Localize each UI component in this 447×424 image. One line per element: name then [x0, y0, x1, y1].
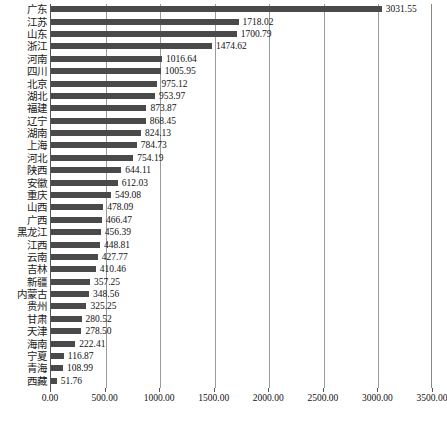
bar-row: 325.25 — [51, 301, 433, 313]
bar-row: 868.45 — [51, 116, 433, 128]
axis-tick-label: 2500.00 — [307, 393, 338, 404]
bar-value-label: 612.03 — [122, 177, 148, 189]
axis-tick-label: 0.00 — [42, 393, 59, 404]
bar-value-label: 1005.95 — [165, 65, 196, 77]
category-label: 黑龙江 — [17, 227, 47, 239]
bar-row: 1474.62 — [51, 41, 433, 53]
bar — [51, 204, 103, 210]
bar — [51, 68, 161, 74]
bar-value-label: 873.87 — [150, 102, 176, 114]
bar — [51, 353, 64, 359]
axis-tick-label: 3000.00 — [362, 393, 393, 404]
bar-row: 448.81 — [51, 240, 433, 252]
bar-value-label: 478.09 — [107, 201, 133, 213]
axis-tick-mark — [268, 388, 269, 392]
category-label: 天津 — [27, 326, 47, 338]
bar-value-label: 448.81 — [104, 239, 130, 251]
axis-tick-mark — [432, 388, 433, 392]
figure-caption — [0, 414, 446, 424]
category-label: 湖北 — [27, 91, 47, 103]
bar — [51, 118, 146, 124]
category-label: 吉林 — [27, 264, 47, 276]
bar-row: 108.99 — [51, 363, 433, 375]
bar — [51, 31, 237, 37]
bar-row: 824.13 — [51, 128, 433, 140]
bar-row: 1005.95 — [51, 66, 433, 78]
bar-value-label: 824.13 — [145, 127, 171, 139]
category-label: 北京 — [27, 79, 47, 91]
bar-value-label: 549.08 — [115, 189, 141, 201]
category-label: 江西 — [27, 240, 47, 252]
category-label: 云南 — [27, 252, 47, 264]
category-axis: 广东江苏山东浙江河南四川北京湖北福建辽宁湖南上海河北陕西安徽重庆山西广西黑龙江江… — [0, 4, 50, 388]
category-label: 海南 — [27, 339, 47, 351]
bar-row: 1700.79 — [51, 29, 433, 41]
bar — [51, 279, 90, 285]
bar-row: 280.52 — [51, 314, 433, 326]
bar — [51, 142, 137, 148]
category-label: 四川 — [27, 66, 47, 78]
category-label: 浙江 — [27, 41, 47, 53]
category-label: 广东 — [27, 4, 47, 16]
category-label: 西藏 — [27, 376, 47, 388]
bar — [51, 341, 75, 347]
bar — [51, 303, 86, 309]
bar-value-label: 754.19 — [137, 152, 163, 164]
category-label: 上海 — [27, 140, 47, 152]
category-label: 新疆 — [27, 277, 47, 289]
axis-tick-mark — [159, 388, 160, 392]
bar — [51, 328, 81, 334]
bar-value-label: 1718.02 — [243, 16, 274, 28]
bar — [51, 167, 121, 173]
bar-row: 975.12 — [51, 79, 433, 91]
bar-row: 466.47 — [51, 215, 433, 227]
bar-row: 784.73 — [51, 140, 433, 152]
plot-area: 3031.551718.021700.791474.621016.641005.… — [50, 4, 432, 388]
bar — [51, 365, 63, 371]
bar-row: 1718.02 — [51, 17, 433, 29]
category-label: 青海 — [27, 363, 47, 375]
bar-value-label: 1474.62 — [216, 40, 247, 52]
bar — [51, 316, 82, 322]
bar-value-label: 975.12 — [161, 78, 187, 90]
bar — [51, 266, 96, 272]
category-label: 甘肃 — [27, 314, 47, 326]
bar-row: 1016.64 — [51, 54, 433, 66]
bar-value-label: 868.45 — [150, 115, 176, 127]
bar — [51, 254, 98, 260]
bar-value-label: 3031.55 — [386, 3, 417, 15]
bar-value-label: 51.76 — [61, 375, 82, 387]
bar — [51, 81, 157, 87]
category-label: 河北 — [27, 153, 47, 165]
bar-row: 3031.55 — [51, 4, 433, 16]
bar-row: 51.76 — [51, 376, 433, 388]
bar — [51, 93, 155, 99]
bar-row: 549.08 — [51, 190, 433, 202]
bar — [51, 6, 382, 12]
axis-tick-label: 1500.00 — [198, 393, 229, 404]
bar — [51, 217, 102, 223]
category-label: 重庆 — [27, 190, 47, 202]
category-label: 辽宁 — [27, 116, 47, 128]
bar — [51, 242, 100, 248]
axis-tick-mark — [50, 388, 51, 392]
bar-value-label: 456.39 — [105, 226, 131, 238]
bar-row: 644.11 — [51, 165, 433, 177]
category-label: 内蒙古 — [17, 289, 47, 301]
bar-value-label: 108.99 — [67, 362, 93, 374]
category-label: 陕西 — [27, 165, 47, 177]
bar-row: 222.41 — [51, 339, 433, 351]
category-label: 广西 — [27, 215, 47, 227]
axis-tick-label: 1000.00 — [144, 393, 175, 404]
bar — [51, 192, 111, 198]
bar-value-label: 1016.64 — [166, 53, 197, 65]
plot-wrapper: 广东江苏山东浙江河南四川北京湖北福建辽宁湖南上海河北陕西安徽重庆山西广西黑龙江江… — [0, 4, 446, 388]
category-label: 河南 — [27, 54, 47, 66]
bar-row: 478.09 — [51, 202, 433, 214]
bar — [51, 378, 57, 384]
axis-tick-label: 2000.00 — [253, 393, 284, 404]
category-label: 江苏 — [27, 17, 47, 29]
bar-value-label: 466.47 — [106, 214, 132, 226]
bar-value-label: 280.52 — [86, 313, 112, 325]
